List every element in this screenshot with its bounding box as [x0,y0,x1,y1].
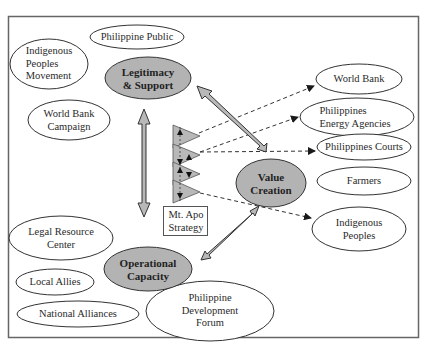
ip-line-2: Peoples [336,229,383,242]
dashed-arrow-world-bank [199,86,314,133]
strategy-line-1: Mt. Apo [168,209,203,222]
la-line-1: Local Allies [29,276,80,289]
double-arrow-bottom-diagonal [201,206,259,260]
ipm-line-3: Movement [26,70,73,83]
value-line-1: Value [250,171,291,184]
strategy-triangles [173,125,200,203]
strategy-line-2: Strategy [168,221,203,234]
philippine-public-line-1: Philippine Public [101,31,174,44]
na-line-1: National Alliances [39,308,117,321]
courts-label: Philippines Courts [325,141,403,154]
operational-line-2: Capacity [120,269,177,282]
pdf-line-1: Philippine [182,292,239,305]
ipm-line-1: Indigenous [26,45,73,58]
double-arrow-vertical [138,109,150,217]
double-arrow-top-diagonal [197,86,267,152]
world-bank-label: World Bank [334,73,385,86]
energy-line-1: Philippines [319,105,390,118]
value-line-2: Creation [250,183,291,196]
wbc-line-2: Campaign [44,120,95,133]
legal-resource-label: Legal Resource Center [28,226,94,251]
indigenous-movement-label: Indigenous Peoples Movement [26,45,73,83]
farmers-line-1: Farmers [347,175,381,188]
pdf-line-3: Forum [182,317,239,330]
wb-line-1: World Bank [334,73,385,86]
indigenous-peoples-label: Indigenous Peoples [336,217,383,242]
courts-line-1: Philippines Courts [325,141,403,154]
ip-line-1: Indigenous [336,217,383,230]
legitimacy-line-2: & Support [122,78,175,91]
pdf-line-2: Development [182,305,239,318]
wbc-line-1: World Bank [44,108,95,121]
legitimacy-line-1: Legitimacy [122,66,175,79]
wb-campaign-label: World Bank Campaign [44,108,95,133]
strategy-label: Mt. Apo Strategy [168,209,203,234]
operational-line-1: Operational [120,257,177,270]
energy-line-2: Energy Agencies [319,117,390,130]
philippine-public-label: Philippine Public [101,31,174,44]
lrc-line-2: Center [28,238,94,251]
lrc-line-1: Legal Resource [28,226,94,239]
legitimacy-label: Legitimacy & Support [122,66,175,91]
national-alliances-label: National Alliances [39,308,117,321]
dashed-arrow-courts [200,151,315,152]
pdf-label: Philippine Development Forum [182,292,239,330]
farmers-label: Farmers [347,175,381,188]
energy-agencies-label: Philippines Energy Agencies [319,105,390,130]
value-creation-label: Value Creation [250,171,291,196]
local-allies-label: Local Allies [29,276,80,289]
operational-label: Operational Capacity [120,257,177,282]
ipm-line-2: Peoples [26,58,73,71]
